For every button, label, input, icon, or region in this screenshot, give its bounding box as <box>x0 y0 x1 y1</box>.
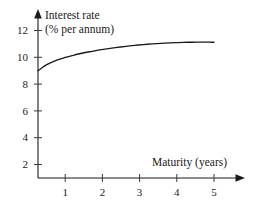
x-tick-label-3: 3 <box>132 187 148 198</box>
y-tick-label-8: 8 <box>6 79 28 90</box>
yield-curve-line <box>38 42 214 71</box>
x-tick-label-2: 2 <box>94 187 110 198</box>
y-axis-arrow-icon <box>34 9 42 19</box>
chart-figure: 12 10 8 6 4 2 1 2 3 4 5 Interest rate (%… <box>0 0 263 212</box>
x-axis-title: Maturity (years) <box>152 156 227 169</box>
y-axis-title: Interest rate (% per annum) <box>45 8 114 36</box>
y-tick-label-2: 2 <box>6 159 28 170</box>
y-tick-label-6: 6 <box>6 106 28 117</box>
y-tick-label-4: 4 <box>6 132 28 143</box>
x-axis-arrow-icon <box>236 174 246 182</box>
y-axis-title-line1: Interest rate <box>45 9 100 21</box>
y-tick-label-12: 12 <box>6 25 28 36</box>
y-tick-label-10: 10 <box>6 52 28 63</box>
y-axis-title-line2: (% per annum) <box>45 22 114 36</box>
x-tick-label-5: 5 <box>206 187 222 198</box>
x-tick-label-1: 1 <box>57 187 73 198</box>
chart-plot-area <box>0 0 263 212</box>
x-tick-label-4: 4 <box>169 187 185 198</box>
